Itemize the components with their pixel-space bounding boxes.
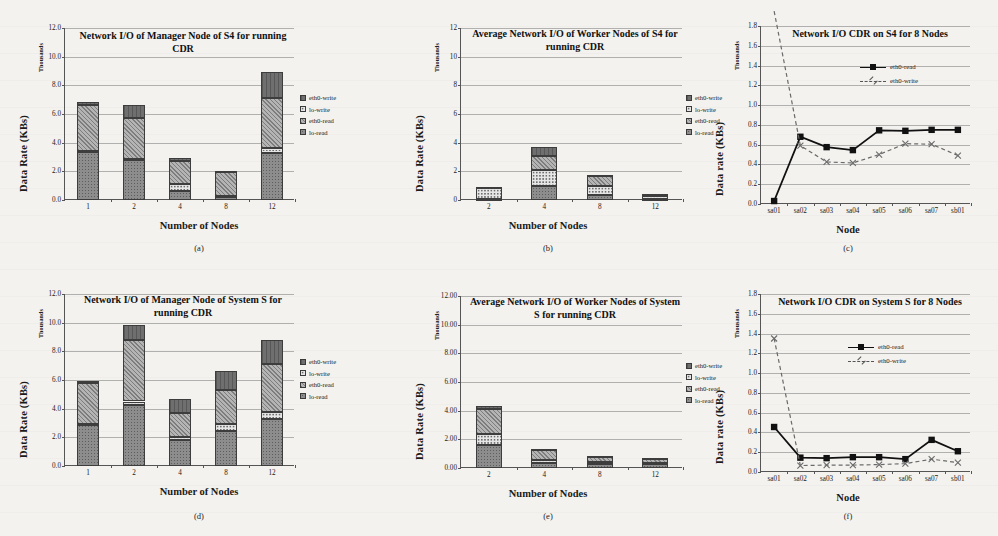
y-tick-label: 2.0 bbox=[52, 167, 61, 175]
x-tick-mark bbox=[971, 203, 972, 206]
bar-segment bbox=[169, 161, 190, 183]
y-tick-mark bbox=[458, 85, 461, 86]
chart-b: Data Rate (KBs)Thousands02468101224812Av… bbox=[398, 0, 698, 268]
bar-segment bbox=[215, 171, 236, 195]
y-tick-label: 2 bbox=[453, 167, 457, 175]
y-tick-label: 0.8 bbox=[748, 121, 757, 129]
bar-segment bbox=[215, 390, 236, 424]
y-tick-label: 6.0 bbox=[52, 110, 61, 118]
y-tick-label: 1.4 bbox=[748, 330, 757, 338]
subplot-caption: (a) bbox=[0, 243, 398, 253]
bar-segment bbox=[261, 148, 282, 152]
bar-segment bbox=[169, 399, 190, 413]
bar-segment bbox=[123, 340, 144, 402]
y-tick-mark bbox=[62, 351, 65, 352]
x-tick-label: 2 bbox=[132, 203, 136, 211]
y-tick-label: 0.0 bbox=[748, 200, 757, 208]
bar-segment bbox=[123, 405, 144, 466]
x-tick-mark bbox=[111, 465, 112, 468]
y-tick-mark bbox=[458, 296, 461, 297]
subplot-e: Data Rate (KBs)Thousands0.002.004.006.00… bbox=[398, 268, 698, 536]
gridline bbox=[65, 114, 294, 115]
y-axis-scale-label: Thousands bbox=[38, 43, 44, 72]
subplot-caption: (b) bbox=[398, 243, 698, 253]
y-axis-scale-label: Thousands bbox=[734, 309, 740, 338]
y-tick-label: 0.6 bbox=[748, 409, 757, 417]
y-tick-label: 2.0 bbox=[52, 433, 61, 441]
y-tick-mark bbox=[458, 325, 461, 326]
line-eth0-read bbox=[774, 427, 958, 459]
legend-item: eth0-read bbox=[848, 340, 906, 354]
bar-segment bbox=[642, 458, 668, 460]
x-tick-label: 12 bbox=[652, 471, 659, 479]
y-tick-label: 1.4 bbox=[748, 62, 757, 70]
x-tick-mark bbox=[111, 199, 112, 202]
bar-segment bbox=[587, 195, 613, 200]
chart-legend: eth0-writelo-writeeth0-readlo-read bbox=[300, 92, 336, 138]
legend-item: eth0-write bbox=[860, 74, 918, 88]
bar-segment bbox=[215, 197, 236, 200]
data-point-marker bbox=[771, 198, 777, 204]
legend-label: eth0-read bbox=[309, 115, 334, 127]
legend-label: eth0-read bbox=[890, 60, 916, 74]
legend-label: eth0-read bbox=[878, 340, 904, 354]
line-series-layer bbox=[761, 294, 971, 472]
bar-segment bbox=[476, 445, 502, 468]
legend-line-marker bbox=[869, 76, 877, 84]
x-tick-mark bbox=[295, 199, 296, 202]
legend-label: lo-read bbox=[309, 391, 328, 403]
data-point-marker bbox=[955, 153, 961, 159]
y-tick-label: 0.00 bbox=[444, 464, 457, 472]
legend-swatch bbox=[686, 397, 692, 403]
y-tick-label: 6.0 bbox=[52, 376, 61, 384]
legend-label: eth0-read bbox=[309, 379, 334, 391]
y-tick-label: 1.8 bbox=[748, 22, 757, 30]
y-tick-label: 12.00 bbox=[441, 292, 457, 300]
x-tick-label: 2 bbox=[487, 471, 491, 479]
y-tick-mark bbox=[458, 353, 461, 354]
gridline bbox=[461, 325, 682, 326]
y-tick-label: 4.00 bbox=[444, 407, 457, 415]
legend-label: lo-write bbox=[309, 104, 330, 116]
x-tick-label: sa01 bbox=[768, 475, 781, 483]
legend-item: lo-write bbox=[300, 104, 336, 116]
data-point-marker bbox=[823, 144, 829, 150]
y-axis-title: Data rate (KBs) bbox=[714, 122, 725, 196]
bar-segment bbox=[215, 196, 236, 198]
y-tick-label: 8 bbox=[453, 81, 457, 89]
data-point-marker bbox=[850, 454, 856, 460]
gridline bbox=[461, 171, 682, 172]
bar-segment bbox=[123, 325, 144, 340]
legend-line bbox=[848, 357, 874, 365]
bar-segment bbox=[77, 381, 98, 383]
bar-segment bbox=[123, 402, 144, 406]
y-tick-mark bbox=[758, 472, 761, 473]
bar-segment bbox=[261, 364, 282, 411]
x-tick-mark bbox=[249, 199, 250, 202]
x-tick-mark bbox=[157, 199, 158, 202]
bar-segment bbox=[531, 463, 557, 468]
chart-title: Network I/O CDR on System S for 8 Nodes bbox=[770, 296, 970, 309]
chart-d: Data Rate (KBs)Thousands0.02.04.06.08.01… bbox=[0, 268, 398, 536]
legend-item: eth0-write bbox=[300, 356, 336, 368]
bar-segment bbox=[77, 383, 98, 424]
x-tick-label: sa03 bbox=[820, 207, 833, 215]
y-axis-title: Data Rate (KBs) bbox=[414, 115, 425, 192]
chart-f: Data rate (KBs)Thousands0.00.20.40.60.81… bbox=[698, 268, 998, 536]
gridline bbox=[461, 143, 682, 144]
x-tick-label: sa04 bbox=[846, 207, 859, 215]
x-tick-mark bbox=[249, 465, 250, 468]
legend-item: lo-write bbox=[300, 368, 336, 380]
gridline bbox=[65, 85, 294, 86]
bar-segment bbox=[531, 156, 557, 170]
x-tick-label: sa07 bbox=[925, 207, 938, 215]
figure-sheet: Data Rate (KBs)Thousands0.02.04.06.08.01… bbox=[0, 0, 998, 536]
y-tick-mark bbox=[458, 143, 461, 144]
x-tick-label: 12 bbox=[268, 203, 275, 211]
y-axis-title: Data Rate (KBs) bbox=[18, 381, 29, 458]
data-point-marker bbox=[823, 455, 829, 461]
x-tick-label: sa05 bbox=[873, 207, 886, 215]
y-tick-mark bbox=[62, 437, 65, 438]
gridline bbox=[461, 85, 682, 86]
legend-swatch bbox=[686, 374, 692, 380]
